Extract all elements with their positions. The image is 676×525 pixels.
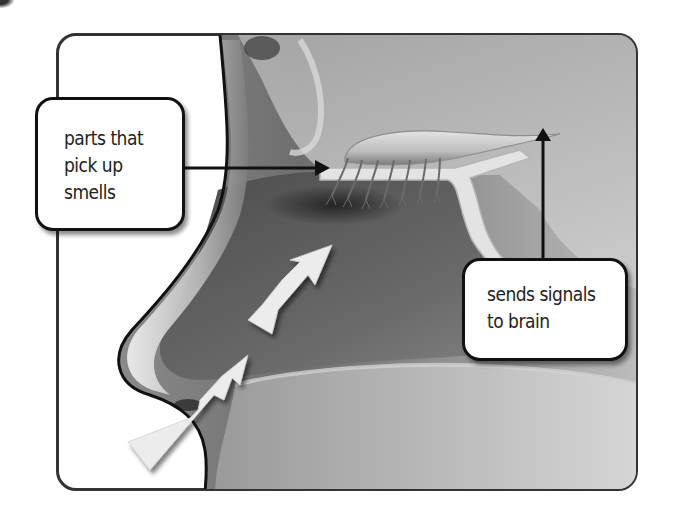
label-text-line: smells (64, 179, 182, 206)
label-text-line: pick up (64, 152, 182, 179)
eyebrow-shade (244, 36, 280, 60)
label-brain-signal: sends signals to brain (462, 258, 628, 361)
label-text-line: sends signals (487, 281, 625, 308)
label-smell-receptors: parts that pick up smells (35, 97, 185, 231)
label-text-line: to brain (487, 308, 625, 335)
label-text-line: parts that (64, 125, 182, 152)
diagram-canvas: parts that pick up smells sends signals … (0, 0, 676, 525)
upper-lip-region (215, 365, 640, 495)
